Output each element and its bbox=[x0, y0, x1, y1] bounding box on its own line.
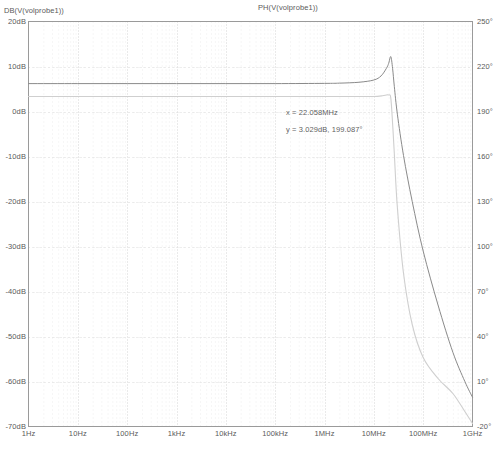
right-axis-tick-label: 40° bbox=[477, 332, 503, 341]
x-axis-tick-label: 10kHz bbox=[200, 429, 252, 438]
magnitude-trace-line bbox=[29, 57, 473, 398]
right-axis-tick-label: 130° bbox=[477, 197, 503, 206]
left-axis-tick-label: -10dB bbox=[0, 152, 26, 161]
right-axis-tick-label: 100° bbox=[477, 242, 503, 251]
phase-trace-line bbox=[29, 95, 473, 424]
left-axis-tick-label: -50dB bbox=[0, 332, 26, 341]
plot-frame bbox=[29, 22, 473, 427]
right-axis-tick-label: 10° bbox=[477, 377, 503, 386]
x-axis-tick-label: 100Hz bbox=[101, 429, 153, 438]
x-axis-tick-label: 1Hz bbox=[3, 429, 55, 438]
minor-gridlines bbox=[44, 22, 471, 427]
annotation-x-line: x = 22.058MHz bbox=[286, 104, 363, 121]
left-axis-tick-label: 0dB bbox=[0, 107, 26, 116]
cursor-readout-annotation[interactable]: x = 22.058MHz y = 3.029dB, 199.087° bbox=[286, 104, 363, 138]
left-axis-tick-label: 20dB bbox=[0, 17, 26, 26]
plot-canvas[interactable] bbox=[0, 0, 503, 454]
left-axis-tick-label: -30dB bbox=[0, 242, 26, 251]
right-axis-tick-label: 160° bbox=[477, 152, 503, 161]
x-axis-tick-label: 10MHz bbox=[348, 429, 400, 438]
x-axis-tick-label: 1kHz bbox=[151, 429, 203, 438]
right-axis-tick-label: 190° bbox=[477, 107, 503, 116]
x-axis-tick-label: 10Hz bbox=[52, 429, 104, 438]
left-axis-tick-label: -40dB bbox=[0, 287, 26, 296]
left-axis-tick-label: -60dB bbox=[0, 377, 26, 386]
waveform-plot-panel: DB(V(volprobe1)) PH(V(volprobe1)) 20dB10… bbox=[0, 0, 503, 454]
x-axis-tick-label: 1MHz bbox=[299, 429, 351, 438]
x-axis-tick-label: 1GHz bbox=[447, 429, 499, 438]
right-axis-tick-label: 220° bbox=[477, 62, 503, 71]
annotation-y-line: y = 3.029dB, 199.087° bbox=[286, 121, 363, 138]
x-axis-tick-label: 100kHz bbox=[249, 429, 301, 438]
right-axis-tick-label: 70° bbox=[477, 287, 503, 296]
right-axis-tick-label: 250° bbox=[477, 17, 503, 26]
x-axis-tick-label: 100MHz bbox=[397, 429, 449, 438]
left-axis-tick-label: -20dB bbox=[0, 197, 26, 206]
left-axis-tick-label: 10dB bbox=[0, 62, 26, 71]
major-gridlines bbox=[29, 22, 473, 427]
